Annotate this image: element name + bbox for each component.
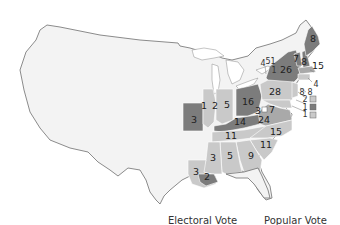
legend-electoral-vote: Electoral Vote bbox=[168, 215, 237, 225]
label-vermont: 7 bbox=[293, 53, 299, 64]
swatch-maryland bbox=[262, 107, 267, 112]
label-ny-split-3: 1 bbox=[270, 57, 275, 66]
label-new-york: 26 bbox=[280, 64, 292, 75]
swatch-dark bbox=[310, 104, 316, 110]
label-alabama: 5 bbox=[227, 150, 233, 161]
state-connecticut bbox=[298, 74, 310, 80]
label-louisiana-2: 2 bbox=[204, 171, 210, 182]
state-new-jersey bbox=[292, 82, 298, 98]
label-kentucky: 14 bbox=[234, 116, 246, 127]
label-georgia: 9 bbox=[248, 150, 254, 161]
label-north-carolina: 15 bbox=[270, 126, 282, 137]
label-virginia: 24 bbox=[258, 114, 270, 125]
label-maryland-2: 1 bbox=[302, 110, 307, 119]
label-illinois-2: 1 bbox=[201, 100, 207, 111]
label-mississippi: 3 bbox=[210, 152, 216, 163]
label-louisiana: 3 bbox=[193, 166, 199, 177]
label-maine: 8 bbox=[310, 33, 316, 44]
label-illinois: 2 bbox=[212, 100, 218, 111]
label-south-carolina: 11 bbox=[260, 139, 272, 150]
label-pennsylvania: 28 bbox=[269, 86, 281, 97]
label-indiana: 5 bbox=[224, 99, 230, 110]
label-massachusetts: 15 bbox=[312, 60, 324, 71]
label-tennessee: 11 bbox=[225, 130, 237, 141]
label-new-hampshire: 8 bbox=[301, 56, 307, 67]
label-missouri: 3 bbox=[191, 114, 197, 125]
label-ny-split-4: 1 bbox=[271, 66, 276, 75]
swatch-light-2 bbox=[310, 112, 316, 118]
legend-popular-vote: Popular Vote bbox=[264, 215, 327, 225]
label-rhode-island: 4 bbox=[313, 80, 318, 89]
electoral-map: 8 7 8 26 15 4 8 8 28 2 1 1 3 7 24 15 11 … bbox=[0, 0, 340, 225]
swatch-light bbox=[310, 96, 316, 102]
label-ohio: 16 bbox=[242, 96, 254, 107]
label-connecticut: 8 bbox=[307, 88, 312, 97]
